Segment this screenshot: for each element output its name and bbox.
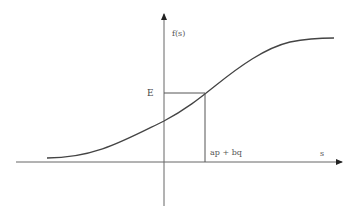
diagram-canvas: f(s) E ap + bq s <box>0 0 352 217</box>
x-axis-label: s <box>320 149 324 158</box>
sigmoid-curve <box>47 38 334 158</box>
y-axis-label: f(s) <box>172 29 185 38</box>
ap-bq-label: ap + bq <box>210 148 242 157</box>
e-label: E <box>147 88 154 98</box>
